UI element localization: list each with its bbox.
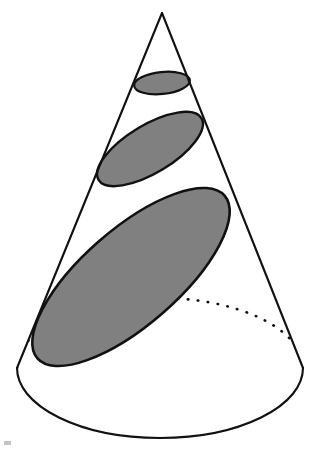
cone-diagram-canvas: [0, 0, 320, 451]
scan-speck-artifact: [4, 441, 11, 445]
cone-diagram-figure: [0, 0, 320, 451]
